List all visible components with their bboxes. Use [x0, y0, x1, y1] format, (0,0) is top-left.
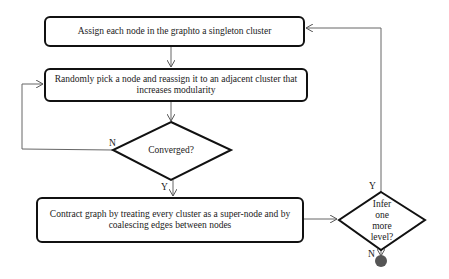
- node-converged-label: Converged?: [130, 145, 212, 156]
- converged-yes-label: Y: [161, 182, 168, 192]
- infer-line-2: one: [360, 210, 404, 221]
- converged-no-label: N: [109, 138, 116, 148]
- infer-line-4: level?: [360, 232, 404, 243]
- infer-no-label: N: [368, 249, 375, 259]
- end-terminal: [375, 255, 387, 267]
- node-contract-graph: Contract graph by treating every cluster…: [36, 197, 304, 243]
- node-infer-label: Infer one more level?: [360, 199, 404, 243]
- node-assign-singleton: Assign each node in the graphto a single…: [44, 16, 305, 47]
- infer-yes-label: Y: [369, 181, 376, 191]
- node-reassign-label: Randomly pick a node and reassign it to …: [52, 74, 300, 96]
- node-reassign: Randomly pick a node and reassign it to …: [44, 68, 308, 102]
- edge-infer-yes-loop: [306, 28, 381, 192]
- infer-line-3: more: [360, 221, 404, 232]
- node-assign-label: Assign each node in the graphto a single…: [78, 26, 272, 37]
- infer-line-1: Infer: [360, 199, 404, 210]
- node-contract-label: Contract graph by treating every cluster…: [48, 209, 292, 231]
